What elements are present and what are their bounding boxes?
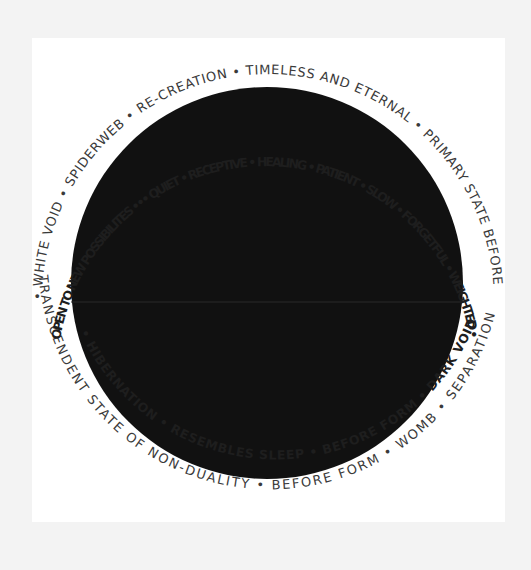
mandala-artwork: • WHITE VOID • SPIDERWEB • RE-CREATION •…	[0, 0, 531, 570]
